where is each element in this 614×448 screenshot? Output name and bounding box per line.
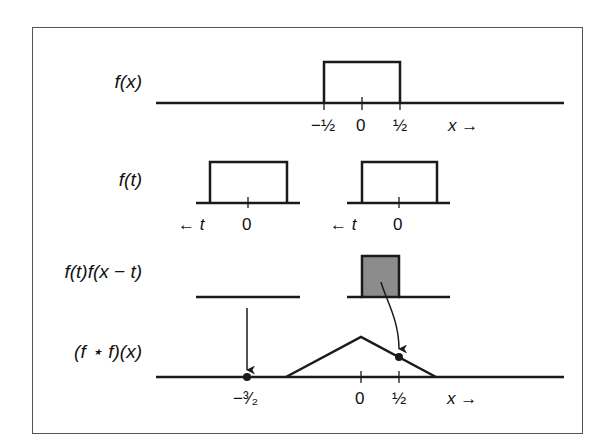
row-ft-left-plot bbox=[196, 162, 300, 208]
tick-zero-conv: 0 bbox=[355, 390, 364, 407]
point-marker-half bbox=[395, 353, 403, 361]
tick-zero-right: 0 bbox=[393, 216, 402, 233]
tick-neg-three-halves: −³⁄₂ bbox=[233, 390, 258, 407]
row-product-right-plot bbox=[347, 256, 450, 297]
axis-label-x: x → bbox=[448, 117, 478, 134]
axis-label-t-right: ← t bbox=[330, 216, 356, 233]
row-ft-right-plot bbox=[347, 162, 450, 208]
tick-neg-half: −½ bbox=[311, 117, 335, 134]
tick-half-conv: ½ bbox=[392, 390, 406, 407]
point-marker-neg-three-halves bbox=[243, 373, 251, 381]
tick-zero-left: 0 bbox=[242, 216, 251, 233]
label-ft: f(t) bbox=[12, 170, 142, 189]
axis-label-t-left: ← t bbox=[178, 216, 204, 233]
tick-half: ½ bbox=[393, 117, 407, 134]
row-convolution-plot bbox=[156, 337, 564, 383]
label-fx: f(x) bbox=[12, 72, 142, 91]
convolution-diagram bbox=[0, 0, 614, 448]
label-convolution: (f ⋆ f)(x) bbox=[8, 342, 142, 361]
axis-label-x-conv: x → bbox=[447, 390, 477, 407]
label-product: f(t)f(x − t) bbox=[8, 262, 142, 281]
row-fx-plot bbox=[156, 62, 564, 110]
tick-zero: 0 bbox=[356, 117, 365, 134]
